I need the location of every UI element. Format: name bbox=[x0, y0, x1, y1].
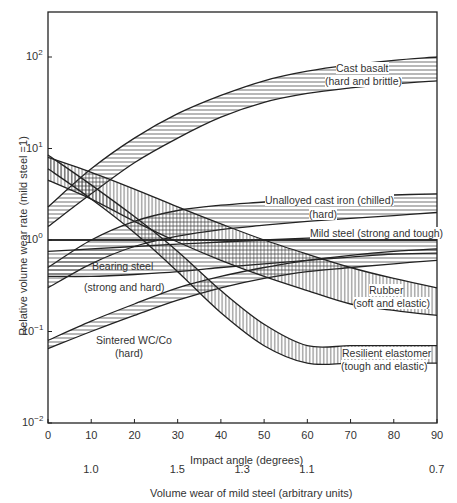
label-wcco-desc: (hard) bbox=[115, 347, 143, 359]
x-tick-label: 60 bbox=[301, 429, 313, 441]
label-cast-iron: Unalloyed cast iron (chilled) bbox=[265, 194, 394, 206]
label-bearing-steel: Bearing steel bbox=[92, 260, 153, 272]
label-rubber: Rubber bbox=[369, 284, 403, 296]
x-tick-label: 0 bbox=[45, 429, 51, 441]
x-tick-label: 40 bbox=[215, 429, 227, 441]
wear-bands bbox=[48, 57, 437, 365]
label-cast-iron-desc: (hard) bbox=[309, 208, 337, 220]
label-elastomer: Resilient elastomer bbox=[342, 347, 431, 359]
secondary-x-tick-label: 1.0 bbox=[83, 463, 98, 475]
label-mild-steel: Mild steel (strong and tough) bbox=[310, 227, 443, 239]
y-tick-label: 102 bbox=[26, 48, 43, 62]
x-tick-label: 10 bbox=[85, 429, 97, 441]
x-tick-label: 90 bbox=[431, 429, 443, 441]
y-tick-label: 10−2 bbox=[22, 414, 43, 428]
secondary-x-axis-title: Volume wear of mild steel (arbitrary uni… bbox=[150, 487, 352, 499]
x-tick-label: 70 bbox=[345, 429, 357, 441]
x-tick-label: 50 bbox=[258, 429, 270, 441]
x-tick-label: 80 bbox=[388, 429, 400, 441]
secondary-x-tick-label: 1.5 bbox=[170, 463, 185, 475]
x-axis-title: Impact angle (degrees) bbox=[190, 454, 303, 466]
x-tick-label: 30 bbox=[172, 429, 184, 441]
label-rubber-desc: (soft and elastic) bbox=[353, 297, 430, 309]
label-cast-basalt: Cast basalt bbox=[336, 62, 389, 74]
label-bearing-steel-desc: (strong and hard) bbox=[84, 281, 165, 293]
y-axis-title: Relative volume wear rate (mild steel =1… bbox=[17, 121, 29, 351]
x-tick-label: 20 bbox=[128, 429, 140, 441]
label-cast-basalt-desc: (hard and brittle) bbox=[325, 75, 402, 87]
label-wcco: Sintered WC/Co bbox=[96, 334, 172, 346]
secondary-x-tick-label: 0.7 bbox=[429, 463, 444, 475]
label-elastomer-desc: (tough and elastic) bbox=[341, 360, 427, 372]
